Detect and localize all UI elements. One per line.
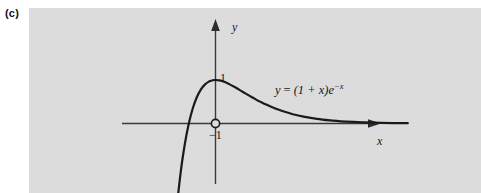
equation-lhs: y [275, 83, 281, 97]
peak-tick-label: 1 [220, 72, 226, 84]
plot-panel: y x 1 −1 y=(1 + x)e−x [29, 8, 481, 193]
plot-graphics [29, 8, 481, 193]
equation-equals: = [284, 83, 291, 97]
equation-label: y=(1 + x)e−x [275, 82, 344, 97]
figure-container: (c) y x 1 −1 y=(1 + x)e−x [0, 0, 481, 193]
y-axis [211, 19, 220, 184]
y-axis-label: y [232, 21, 237, 33]
part-label: (c) [5, 8, 19, 19]
x-axis-label: x [377, 135, 382, 147]
equation-exponent: −x [334, 81, 344, 91]
x-intercept-label: −1 [209, 129, 222, 141]
equation-factor: (1 + x) [294, 83, 329, 97]
origin-marker [211, 119, 219, 127]
